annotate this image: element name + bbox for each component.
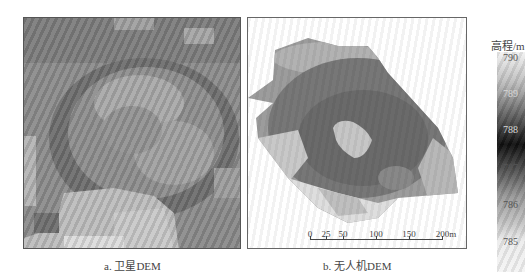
satellite-dem-panel	[23, 17, 241, 249]
scale-label: 200m	[436, 229, 457, 239]
legend-tick-788: 788	[503, 124, 518, 135]
scale-label: 0	[308, 229, 313, 239]
satellite-dem-raster	[24, 18, 241, 249]
legend-tick-789: 789	[503, 88, 518, 99]
legend-tick-785: 785	[503, 236, 518, 247]
legend-title: 高程/m	[491, 37, 525, 53]
scale-bar: 0 25 50 100 150 200m	[306, 232, 450, 242]
legend-tick-790: 790	[503, 52, 518, 63]
uav-dem-raster	[248, 18, 467, 249]
legend-tick-787: 787	[503, 162, 518, 173]
legend-tick-786: 786	[503, 199, 518, 210]
uav-dem-panel	[247, 17, 467, 249]
caption-uav-dem: b. 无人机DEM	[323, 257, 391, 273]
scale-label: 150	[402, 229, 416, 239]
caption-satellite-dem: a. 卫星DEM	[104, 257, 161, 273]
scale-label: 25	[322, 229, 331, 239]
scale-label: 100	[369, 229, 383, 239]
scale-label: 50	[339, 229, 348, 239]
